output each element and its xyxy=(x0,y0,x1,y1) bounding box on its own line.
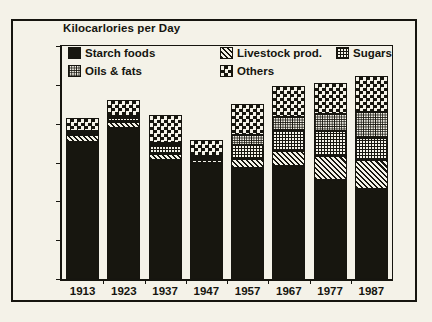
bar-segment-livestock-prod xyxy=(231,159,264,168)
bar-segment-others xyxy=(272,86,305,117)
bar-segment-livestock-prod xyxy=(66,135,99,142)
bar-segment-livestock-prod xyxy=(149,154,182,160)
chart-figure: Kilocarlories per Day 050010001500200025… xyxy=(0,0,432,322)
y-axis-tick-mark xyxy=(56,279,62,280)
x-axis-tick-label: 1957 xyxy=(235,285,261,297)
bar-segment-others xyxy=(149,115,182,143)
bar-segment-oils-fats xyxy=(355,112,388,138)
bar-segment-others xyxy=(314,83,347,115)
legend-swatch-icon xyxy=(220,47,233,59)
legend-item-sugars: Sugars xyxy=(336,47,392,59)
legend-item-others: Others xyxy=(220,65,274,77)
bar-segment-oils-fats xyxy=(66,131,99,133)
bar-segment-oils-fats xyxy=(231,135,264,144)
bar-segment-sugars xyxy=(272,130,305,151)
x-axis-tick-label: 1967 xyxy=(276,285,302,297)
x-axis-tick-mark xyxy=(145,279,146,284)
bar-segment-oils-fats xyxy=(314,114,347,131)
bar-segment-sugars xyxy=(66,133,99,135)
x-axis-tick-mark xyxy=(351,279,352,284)
y-axis-tick-mark xyxy=(56,46,62,47)
bar-segment-livestock-prod xyxy=(355,160,388,189)
bar-1977 xyxy=(314,83,347,279)
y-axis-tick-mark xyxy=(56,85,62,86)
bar-segment-starch-foods xyxy=(314,180,347,279)
x-axis-tick-label: 1923 xyxy=(111,285,137,297)
bar-1967 xyxy=(272,86,305,279)
chart-title: Kilocarlories per Day xyxy=(63,22,180,34)
legend-label: Sugars xyxy=(353,47,392,59)
bar-segment-livestock-prod xyxy=(190,160,223,162)
bar-segment-oils-fats xyxy=(149,143,182,145)
bar-1957 xyxy=(231,104,264,279)
bar-1913 xyxy=(66,118,99,279)
bar-segment-starch-foods xyxy=(231,168,264,279)
x-axis-tick-mark xyxy=(227,279,228,284)
bar-segment-others xyxy=(107,100,140,116)
bar-segment-livestock-prod xyxy=(314,156,347,180)
x-axis-tick-label: 1987 xyxy=(359,285,385,297)
legend-swatch-icon xyxy=(68,47,81,59)
bar-1947 xyxy=(190,140,223,279)
bar-segment-sugars xyxy=(107,118,140,122)
x-axis-tick-mark xyxy=(186,279,187,284)
bar-segment-oils-fats xyxy=(272,117,305,130)
legend-swatch-icon xyxy=(68,65,81,77)
x-axis-tick-label: 1977 xyxy=(317,285,343,297)
legend-item-livestock-prod: Livestock prod. xyxy=(220,47,322,59)
bar-segment-starch-foods xyxy=(190,163,223,280)
legend-row: Starch foodsLivestock prod.Sugars xyxy=(68,47,378,63)
legend-row: Oils & fatsOthers xyxy=(68,65,378,81)
bar-segment-others xyxy=(231,104,264,135)
legend-label: Others xyxy=(237,65,274,77)
bar-segment-starch-foods xyxy=(149,160,182,279)
legend-label: Oils & fats xyxy=(85,65,142,77)
legend-swatch-icon xyxy=(220,65,233,77)
y-axis-tick-mark xyxy=(56,240,62,241)
chart-legend: Starch foodsLivestock prod.SugarsOils & … xyxy=(68,47,378,83)
bar-segment-livestock-prod xyxy=(107,122,140,127)
legend-label: Starch foods xyxy=(85,47,155,59)
legend-item-oils-fats: Oils & fats xyxy=(68,65,142,77)
x-axis-tick-label: 1937 xyxy=(152,285,178,297)
bar-segment-others xyxy=(190,140,223,156)
x-axis-tick-label: 1913 xyxy=(70,285,96,297)
x-axis-tick-label: 1947 xyxy=(194,285,220,297)
bar-segment-sugars xyxy=(314,131,347,156)
legend-label: Livestock prod. xyxy=(237,47,322,59)
y-axis-tick-mark xyxy=(56,201,62,202)
bar-segment-oils-fats xyxy=(107,116,140,118)
bar-segment-sugars xyxy=(190,157,223,160)
bar-segment-starch-foods xyxy=(66,142,99,279)
x-axis-tick-mark xyxy=(268,279,269,284)
y-axis-tick-mark xyxy=(56,163,62,164)
bar-segment-starch-foods xyxy=(355,189,388,279)
bar-segment-starch-foods xyxy=(107,128,140,279)
bar-1923 xyxy=(107,100,140,279)
bar-segment-others xyxy=(66,118,99,130)
bar-1987 xyxy=(355,76,388,279)
bar-segment-sugars xyxy=(231,145,264,159)
legend-swatch-icon xyxy=(336,47,349,59)
bar-segment-starch-foods xyxy=(272,166,305,279)
x-axis-tick-mark xyxy=(103,279,104,284)
bar-segment-sugars xyxy=(355,138,388,160)
bar-1937 xyxy=(149,115,182,279)
bar-segment-livestock-prod xyxy=(272,151,305,167)
bar-segment-sugars xyxy=(149,145,182,154)
legend-item-starch-foods: Starch foods xyxy=(68,47,155,59)
y-axis-tick-mark xyxy=(56,124,62,125)
x-axis-tick-mark xyxy=(310,279,311,284)
